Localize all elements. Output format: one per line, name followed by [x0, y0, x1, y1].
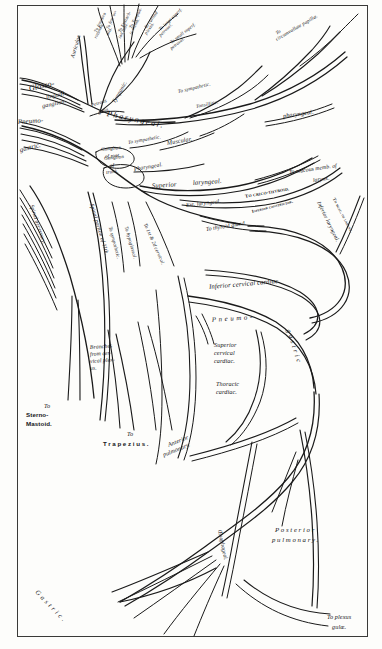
label-superior-cervical-cardiac-2: cervical [214, 350, 235, 356]
nerve-path-sternomastoid-branch [68, 296, 72, 400]
label-to-plexus-gulae-1: To plexus [327, 614, 351, 620]
label-branches-from-cervical-plexus-4: us. [90, 366, 97, 372]
label-posterior-pulmonary-1: Posterior [275, 527, 316, 534]
nerve-path-auricular-branch2 [84, 36, 92, 104]
label-superior-cervical-cardiac-1: Superior [214, 342, 236, 348]
nerve-path-cerv-desc-1 [178, 276, 190, 458]
label-to-trapezius-1: To [127, 431, 133, 437]
label-to-sterno-mastoid-1: To [44, 403, 50, 409]
label-superior-cervical-cardiac-3: cardiac. [214, 358, 235, 364]
nerve-path-post-pulm-fan2 [282, 460, 298, 526]
nerve-path-gastric-fan-a [112, 552, 208, 592]
nerve-path-gastric-fan-b [118, 556, 212, 602]
label-to-plexus-gulae-2: gulæ. [332, 624, 346, 630]
nerve-path-spinal-access-root-g [25, 244, 57, 310]
nerve-path-inf-laryngeal-loop2 [250, 231, 349, 323]
nerve-path-inf-laryngeal-loop [248, 226, 345, 318]
figure-canvas: To fenestrarotunda.To fen. ov-alis.To Eu… [0, 0, 382, 649]
nerve-path-gastric-fan-d [164, 564, 220, 634]
nerve-path-oesoph-branch [222, 442, 252, 596]
nerve-path-cervical-plexus-b [138, 322, 156, 430]
label-to-sterno-mastoid-3: Mastoid. [26, 421, 52, 427]
label-posterior-pulmonary-2: pulmonary. [272, 537, 320, 544]
nerve-path-muscular-2 [200, 114, 244, 136]
nerve-path-plexus-gulae-curve2 [236, 584, 328, 626]
label-thoracic-cardiac-2: cardiac. [216, 389, 237, 395]
nerve-path-plexus-gulae-curve [244, 580, 330, 614]
nerve-path-ant-pulmonary2 [192, 423, 298, 461]
nerve-path-sup-cerv-cardiac [196, 316, 208, 344]
label-thoracic-cardiac-1: Thoracic [216, 381, 239, 387]
nerve-path-oesoph-branch2 [227, 444, 257, 598]
nerve-path-circumvallate-b1 [255, 26, 330, 100]
label-to-sterno-mastoid-2: Sterno- [26, 412, 48, 418]
label-to-trapezius-2: Trapezius. [103, 441, 150, 447]
nerve-path-auricular-branch [79, 36, 88, 104]
nerve-path-vagus-descend-left2 [125, 394, 319, 606]
